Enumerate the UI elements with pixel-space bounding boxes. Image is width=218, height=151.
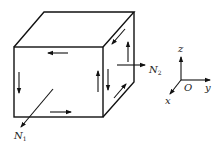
- shear-arrow-right-top-diag-icon: [112, 29, 125, 44]
- coordinate-axes: z O y x: [165, 43, 211, 106]
- origin-label: O: [184, 82, 192, 93]
- force-n2-label: N2: [148, 64, 162, 76]
- shear-arrow-right-bottom-diag-icon: [114, 84, 126, 98]
- force-n2: N2: [117, 64, 162, 76]
- front-face-shear-arrows: [19, 53, 98, 112]
- x-axis-arrow-icon: [170, 80, 181, 94]
- y-axis-label: y: [204, 82, 211, 93]
- force-n1-arrow-icon: [21, 89, 53, 127]
- x-axis-label: x: [165, 95, 171, 106]
- stress-cube-diagram: N1 N2 z O y x: [0, 0, 218, 151]
- right-face-shear-arrows: [108, 29, 128, 98]
- force-n1: N1: [13, 89, 53, 142]
- force-n1-label: N1: [13, 130, 27, 142]
- cube-top-face: [14, 12, 134, 47]
- z-axis-label: z: [177, 43, 184, 54]
- cube-front-face: [14, 47, 103, 117]
- cube: [14, 12, 134, 117]
